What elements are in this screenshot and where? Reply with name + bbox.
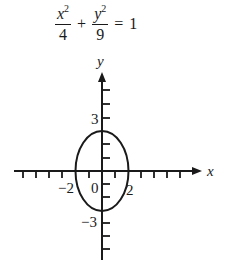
y-axis-label: y	[95, 53, 104, 69]
y-neg-label: −3	[81, 214, 97, 230]
x-axis-label: x	[206, 163, 214, 179]
x-neg-label: −2	[58, 180, 74, 196]
y-pos-label: 3	[91, 111, 99, 127]
ellipse-graph: x y 3 −2 0 2 −3	[0, 0, 231, 267]
y-axis-arrow-icon	[98, 72, 106, 82]
y-axis-ticks	[102, 90, 110, 249]
x-pos-label: 2	[126, 182, 134, 198]
x-axis-arrow-icon	[192, 167, 202, 175]
origin-label: 0	[91, 180, 99, 196]
